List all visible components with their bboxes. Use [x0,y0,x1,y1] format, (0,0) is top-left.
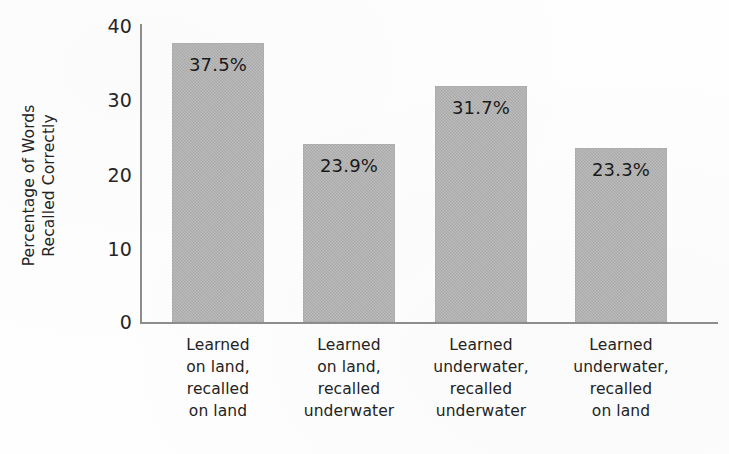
y-axis-title-line-1: Percentage of Words [19,85,39,285]
bar-group-1: 37.5% [172,24,264,322]
category-label-1-line-4: on land [148,400,288,422]
category-label-2-line-3: recalled [279,378,419,400]
category-label-3-line-4: underwater [411,400,551,422]
category-label-3-line-3: recalled [411,378,551,400]
plot-area: 37.5% 23.9% 31.7% 23.3% [142,24,718,322]
category-label-2-line-2: on land, [279,356,419,378]
y-tick-30: 30 [86,91,132,111]
bar-value-label-2: 23.9% [303,157,395,175]
bar-group-2: 23.9% [303,24,395,322]
y-tick-40: 40 [86,17,132,37]
category-label-1-line-3: recalled [148,378,288,400]
category-label-4-line-3: recalled [551,378,691,400]
category-label-1: Learned on land, recalled on land [148,334,288,422]
category-label-4-line-1: Learned [551,334,691,356]
category-label-3: Learned underwater, recalled underwater [411,334,551,422]
category-label-4-line-4: on land [551,400,691,422]
category-label-4: Learned underwater, recalled on land [551,334,691,422]
bar-group-3: 31.7% [435,24,527,322]
category-label-4-line-2: underwater, [551,356,691,378]
category-label-3-line-2: underwater, [411,356,551,378]
category-label-2: Learned on land, recalled underwater [279,334,419,422]
bar-value-label-1: 37.5% [172,56,264,74]
y-tick-20: 20 [86,166,132,186]
y-tick-label-20: 20 [86,166,132,185]
category-label-1-line-2: on land, [148,356,288,378]
y-tick-label-30: 30 [86,91,132,110]
bar-group-4: 23.3% [575,24,667,322]
y-axis-title-line-2: Recalled Correctly [39,85,59,285]
y-tick-10: 10 [86,240,132,260]
bar-chart-figure: Percentage of Words Recalled Correctly 4… [0,0,729,454]
bar-learned-on-land-recalled-on-land [172,43,264,322]
bar-value-label-4: 23.3% [575,161,667,179]
category-label-3-line-1: Learned [411,334,551,356]
category-label-2-line-4: underwater [279,400,419,422]
y-tick-0: 0 [86,313,132,333]
y-axis-title: Percentage of Words Recalled Correctly [19,85,60,285]
y-tick-label-40: 40 [86,17,132,36]
x-axis-line [140,322,718,324]
category-label-1-line-1: Learned [148,334,288,356]
category-axis: Learned on land, recalled on land Learne… [142,334,718,444]
y-tick-label-0: 0 [86,313,132,332]
y-tick-label-10: 10 [86,240,132,259]
category-label-2-line-1: Learned [279,334,419,356]
bar-value-label-3: 31.7% [435,99,527,117]
bar-learned-underwater-recalled-underwater [435,86,527,322]
